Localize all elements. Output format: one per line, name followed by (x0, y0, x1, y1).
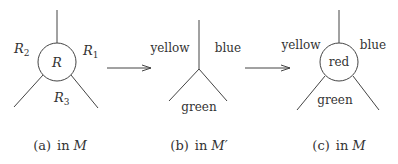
panel-b: yellow blue green (b)inM′ (149, 20, 241, 153)
caption-c: (c)inM (312, 138, 366, 153)
center-label: R (51, 55, 62, 70)
center-label: red (329, 55, 350, 69)
label-bottom: green (181, 100, 217, 114)
label-bottom: green (317, 93, 353, 107)
label-right: R1 (82, 43, 99, 60)
label-left: R2 (13, 41, 30, 58)
edge-right (71, 75, 98, 108)
label-left: yellow (149, 41, 190, 55)
panel-c: red yellow blue green (c)inM (280, 10, 386, 153)
label-bottom: R3 (53, 90, 70, 107)
label-right: blue (215, 41, 241, 55)
caption-a: (a)inM (33, 138, 87, 153)
edge-left (169, 69, 199, 101)
label-right: blue (360, 38, 386, 52)
edge-left (14, 75, 43, 107)
caption-b: (b)inM′ (170, 138, 227, 153)
diagram-canvas: R R2 R1 R3 (a)inM yellow blue green (b)i… (0, 0, 398, 164)
edge-right (199, 69, 227, 101)
label-left: yellow (280, 38, 321, 52)
edge-right (353, 76, 379, 110)
panel-a: R R2 R1 R3 (a)inM (13, 10, 99, 153)
